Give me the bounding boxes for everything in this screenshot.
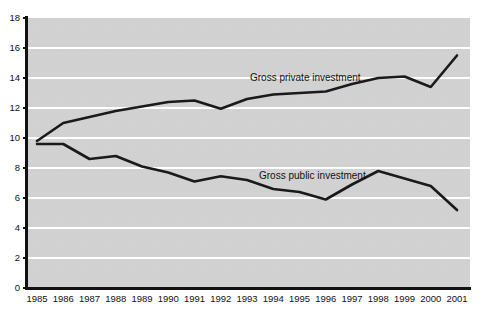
series-annotation-gross-private-investment: Gross private investment	[250, 72, 361, 83]
y-axis-label: 14	[0, 73, 20, 83]
y-axis-label: 0	[0, 283, 20, 293]
y-axis-label: 4	[0, 223, 20, 233]
y-axis-label: 6	[0, 193, 20, 203]
y-axis-label: 10	[0, 133, 20, 143]
gridline	[28, 77, 470, 79]
y-axis-label: 16	[0, 43, 20, 53]
gridline	[28, 257, 470, 259]
y-axis-label: 8	[0, 163, 20, 173]
gridline	[28, 107, 470, 109]
y-axis-label: 12	[0, 103, 20, 113]
gridline	[28, 47, 470, 49]
gridline	[28, 197, 470, 199]
x-axis-line	[25, 287, 471, 290]
gridline	[28, 227, 470, 229]
series-annotation-gross-public-investment: Gross public investment	[259, 170, 366, 181]
plot-background	[28, 18, 470, 288]
y-axis-label: 2	[0, 253, 20, 263]
gridline	[28, 137, 470, 139]
x-axis-label: 2001	[440, 293, 474, 304]
y-axis-label: 18	[0, 13, 20, 23]
investment-line-chart: 024681012141618 198519861987198819891990…	[0, 0, 480, 315]
gridline	[28, 167, 470, 169]
y-axis-line	[25, 16, 28, 290]
